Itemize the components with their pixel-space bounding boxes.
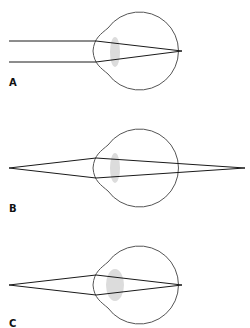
lens-c [106, 269, 124, 301]
eye-refraction-diagram [0, 0, 250, 328]
eyeball-outline-a [93, 12, 178, 90]
light-ray [9, 158, 245, 168]
lens-a [110, 37, 120, 67]
panel-label-c: C [9, 319, 16, 328]
light-ray [9, 285, 182, 295]
panel-label-b: B [9, 204, 17, 214]
eyeball-outline-c [93, 246, 178, 324]
panel-c [9, 246, 182, 324]
lens-b [110, 153, 120, 183]
light-ray [9, 41, 182, 51]
light-ray [9, 168, 245, 178]
eyeball-outline-b [93, 129, 178, 207]
light-ray [9, 275, 182, 285]
panel-label-a: A [9, 78, 17, 88]
panel-a [9, 12, 182, 90]
panel-b [9, 129, 245, 207]
